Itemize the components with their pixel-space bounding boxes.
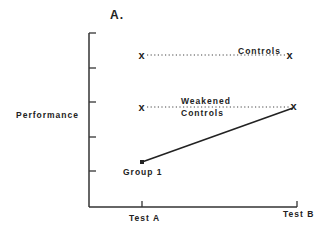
marker-x-icon: x <box>286 49 293 61</box>
marker-x-icon: x <box>138 49 145 61</box>
x-tick-label-test-b: Test B <box>283 209 314 219</box>
y-axis-label: Performance <box>16 110 79 120</box>
x-tick-label-test-a: Test A <box>129 213 160 223</box>
y-ticks <box>89 33 96 171</box>
weakened-label: Weakened <box>181 96 231 106</box>
group1-label: Group 1 <box>123 167 163 177</box>
marker-square-icon <box>140 160 144 164</box>
x-ticks <box>142 201 297 207</box>
weakened-label-2: Controls <box>181 108 224 118</box>
controls-label: Controls <box>238 46 281 56</box>
chart: x x x x A. Performance Controls Weakened… <box>0 0 332 232</box>
marker-x-icon: x <box>290 100 297 112</box>
marker-x-icon: x <box>138 101 145 113</box>
chart-title: A. <box>110 8 124 22</box>
